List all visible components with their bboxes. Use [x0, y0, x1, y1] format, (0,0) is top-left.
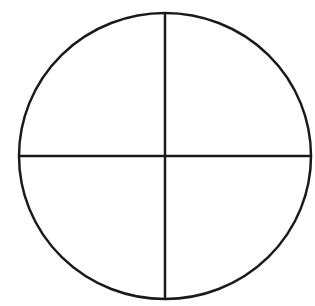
- quadrant-circle-diagram: [0, 0, 315, 306]
